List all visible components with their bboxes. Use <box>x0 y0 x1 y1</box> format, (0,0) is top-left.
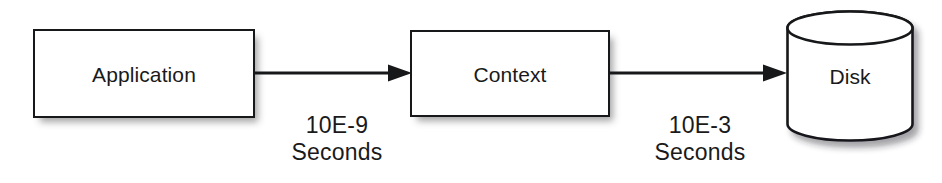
node-context[interactable]: Context <box>410 30 610 117</box>
node-application-label: Application <box>35 63 253 84</box>
node-disk[interactable]: Disk <box>785 9 915 143</box>
diagram-canvas: Application 10E-9 Seconds Context 10E-3 … <box>0 0 942 183</box>
edge-caption-app-to-context: 10E-9 Seconds <box>237 112 437 166</box>
node-application[interactable]: Application <box>33 29 255 118</box>
node-context-label: Context <box>412 63 608 84</box>
edge-caption-value: 10E-3 <box>600 112 800 139</box>
edge-caption-unit: Seconds <box>600 139 800 166</box>
edge-caption-context-to-disk: 10E-3 Seconds <box>600 112 800 166</box>
edge-caption-unit: Seconds <box>237 139 437 166</box>
arrow-application-to-context <box>255 61 412 85</box>
edge-caption-value: 10E-9 <box>237 112 437 139</box>
arrow-context-to-disk <box>610 61 787 85</box>
